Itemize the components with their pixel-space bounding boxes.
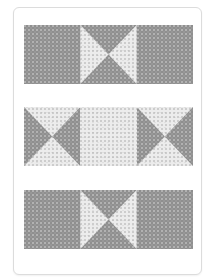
- solid-block-dark: [24, 190, 80, 249]
- quilt-row-3: [24, 190, 193, 249]
- solid-block-dark: [137, 25, 193, 84]
- hourglass-block: [137, 107, 193, 166]
- solid-block-dark: [137, 190, 193, 249]
- hourglass-block: [80, 25, 136, 84]
- solid-block-dark: [24, 25, 80, 84]
- quilt-row-2: [24, 107, 193, 166]
- quilt-row-1: [24, 25, 193, 84]
- solid-block-light: [80, 107, 136, 166]
- hourglass-block: [24, 107, 80, 166]
- hourglass-block: [80, 190, 136, 249]
